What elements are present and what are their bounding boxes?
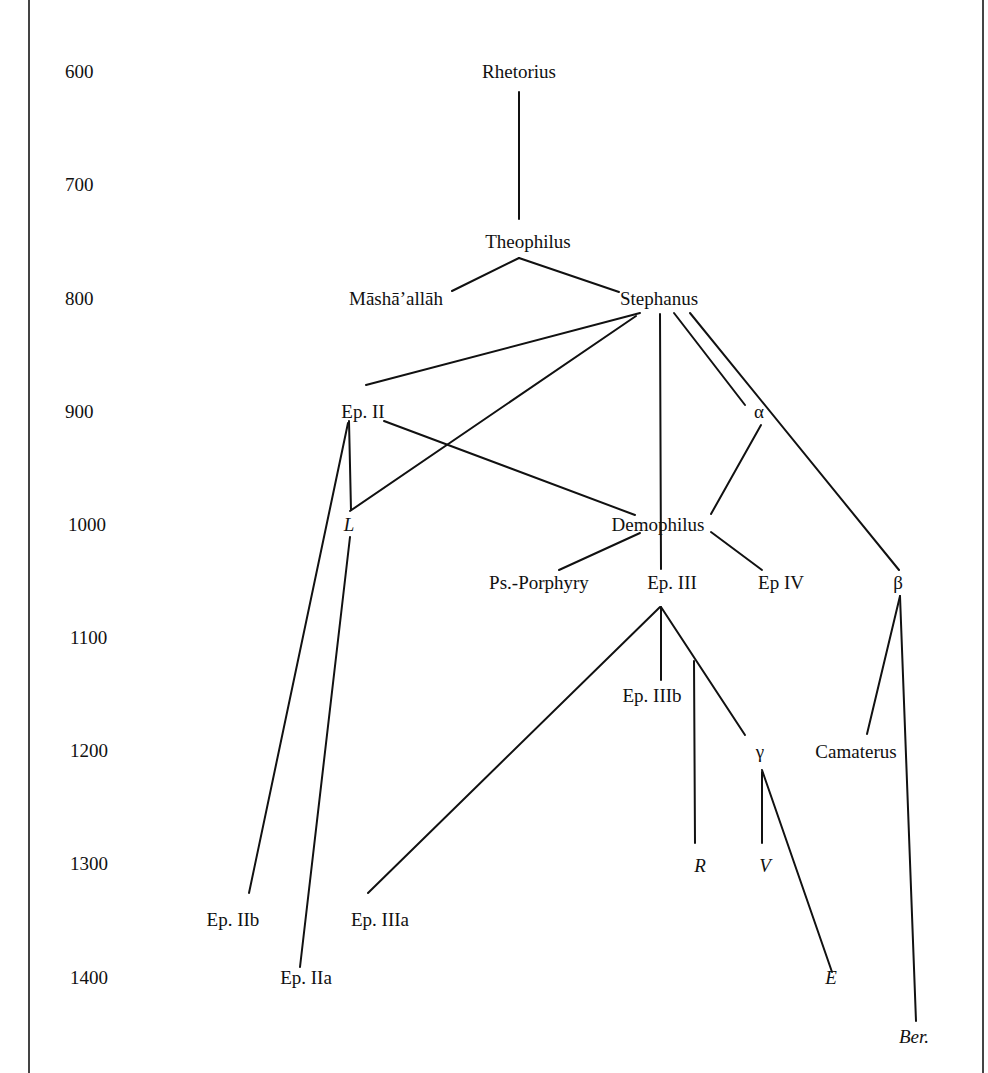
- node-V: V: [759, 855, 773, 876]
- node-ep2a: Ep. IIa: [280, 967, 332, 988]
- node-gamma: γ: [755, 741, 764, 762]
- edge-theophilus-stephanus: [519, 258, 619, 292]
- node-demophilus: Demophilus: [612, 514, 705, 535]
- edge-ep2-L: [349, 421, 351, 510]
- axis-tick-1400: 1400: [70, 967, 108, 988]
- node-rhetorius: Rhetorius: [482, 61, 556, 82]
- node-R: R: [693, 855, 706, 876]
- node-ep2: Ep. II: [341, 401, 384, 422]
- node-beta: β: [893, 572, 903, 593]
- node-alpha: α: [754, 401, 764, 422]
- edge-gamma-E: [762, 770, 832, 972]
- edge-ep3-ep3a: [368, 607, 660, 893]
- node-psporphyry: Ps.-Porphyry: [489, 572, 589, 593]
- edge-ep3-gamma: [661, 607, 745, 735]
- edge-L-ep2a: [300, 537, 350, 967]
- node-stephanus: Stephanus: [620, 288, 698, 309]
- edge-stephanus-L: [350, 316, 636, 511]
- axis-tick-600: 600: [65, 61, 94, 82]
- axis-tick-700: 700: [65, 174, 94, 195]
- stemma-diagram: 600 700 800 900 1000 1100 1200 1300 1400: [0, 0, 988, 1073]
- edge-beta-ber: [900, 596, 916, 1021]
- node-camaterus: Camaterus: [815, 741, 896, 762]
- edge-stephanus-beta: [690, 313, 899, 570]
- edge-alpha-demophilus: [711, 425, 761, 514]
- node-ep4: Ep IV: [758, 572, 804, 593]
- node-ber: Ber.: [899, 1026, 929, 1047]
- axis-tick-1200: 1200: [70, 740, 108, 761]
- node-ep3a: Ep. IIIa: [351, 909, 410, 930]
- axis-tick-1000: 1000: [68, 514, 106, 535]
- node-ep3: Ep. III: [647, 572, 697, 593]
- stemma-edges: [249, 92, 916, 1021]
- node-theophilus: Theophilus: [485, 231, 571, 252]
- edge-demophilus-ep4: [711, 532, 762, 570]
- node-mashaallah: Māshā’allāh: [349, 288, 443, 309]
- edge-ep3-R: [694, 661, 695, 843]
- node-ep2b: Ep. IIb: [207, 909, 260, 930]
- axis-tick-1300: 1300: [70, 853, 108, 874]
- stemma-nodes: Rhetorius Theophilus Māshā’allāh Stephan…: [207, 61, 929, 1047]
- edge-ep2-demophilus: [384, 421, 635, 515]
- timeline-axis: 600 700 800 900 1000 1100 1200 1300 1400: [65, 61, 108, 988]
- node-L: L: [343, 514, 355, 535]
- node-ep3b: Ep. IIIb: [622, 685, 681, 706]
- edge-stephanus-alpha: [674, 313, 745, 405]
- edge-beta-camaterus: [867, 596, 900, 734]
- node-E: E: [824, 967, 837, 988]
- edge-ep2-ep2b: [249, 423, 348, 893]
- axis-tick-900: 900: [65, 401, 94, 422]
- axis-tick-800: 800: [65, 288, 94, 309]
- edge-stephanus-ep2: [366, 313, 640, 385]
- edge-theophilus-mashaallah: [452, 258, 519, 291]
- edge-demophilus-psporphyry: [559, 533, 640, 570]
- axis-tick-1100: 1100: [70, 627, 107, 648]
